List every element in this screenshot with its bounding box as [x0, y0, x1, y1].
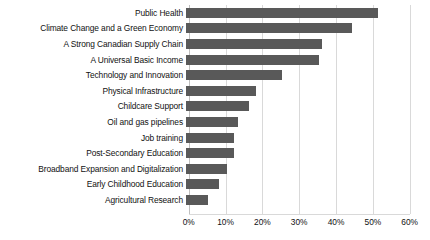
bar-row: Technology and Innovation: [0, 67, 430, 83]
x-tick-label: 40%: [328, 217, 345, 227]
x-tick-label: 10%: [217, 217, 234, 227]
bar-track: [186, 161, 430, 177]
x-tick-label: 60%: [401, 217, 418, 227]
bar[interactable]: [186, 101, 249, 111]
category-label: Early Childhood Education: [0, 179, 186, 189]
bar-row: Public Health: [0, 5, 430, 21]
bar-row: Childcare Support: [0, 99, 430, 115]
category-label: Oil and gas pipelines: [0, 117, 186, 127]
category-label: Climate Change and a Green Economy: [0, 23, 186, 33]
bar-track: [186, 83, 430, 99]
x-tick-label: 20%: [254, 217, 271, 227]
category-label: A Strong Canadian Supply Chain: [0, 39, 186, 49]
bar-row: A Strong Canadian Supply Chain: [0, 36, 430, 52]
bar[interactable]: [186, 195, 208, 205]
category-label: Physical Infrastructure: [0, 86, 186, 96]
category-label: A Universal Basic Income: [0, 55, 186, 65]
bar-row: Early Childhood Education: [0, 177, 430, 193]
bar-track: [186, 177, 430, 193]
category-label: Childcare Support: [0, 101, 186, 111]
bar[interactable]: [186, 86, 256, 96]
bar[interactable]: [186, 39, 322, 49]
chart-plot-area: Public HealthClimate Change and a Green …: [0, 0, 430, 240]
bar-rows: Public HealthClimate Change and a Green …: [0, 5, 430, 208]
bar[interactable]: [186, 8, 378, 18]
bar-row: Oil and gas pipelines: [0, 114, 430, 130]
bar-track: [186, 192, 430, 208]
bar-row: A Universal Basic Income: [0, 52, 430, 68]
bar[interactable]: [186, 133, 234, 143]
bar-row: Climate Change and a Green Economy: [0, 21, 430, 37]
bar-track: [186, 114, 430, 130]
bar-track: [186, 67, 430, 83]
x-tick-label: 0%: [183, 217, 195, 227]
bar-track: [186, 52, 430, 68]
bar-track: [186, 21, 430, 37]
category-label: Post-Secondary Education: [0, 148, 186, 158]
bar-row: Physical Infrastructure: [0, 83, 430, 99]
bar-row: Job training: [0, 130, 430, 146]
x-tick-label: 30%: [291, 217, 308, 227]
bar-track: [186, 99, 430, 115]
bar[interactable]: [186, 117, 238, 127]
bar-row: Agricultural Research: [0, 192, 430, 208]
bar-track: [186, 130, 430, 146]
category-label: Broadband Expansion and Digitalization: [0, 164, 186, 174]
bar-row: Post-Secondary Education: [0, 145, 430, 161]
category-label: Agricultural Research: [0, 195, 186, 205]
x-axis-tick-labels: 0%10%20%30%40%50%60%: [0, 217, 430, 231]
bar-track: [186, 145, 430, 161]
bar-track: [186, 5, 430, 21]
category-label: Technology and Innovation: [0, 70, 186, 80]
bar[interactable]: [186, 55, 319, 65]
x-tick-label: 50%: [364, 217, 381, 227]
bar[interactable]: [186, 23, 352, 33]
bar[interactable]: [186, 164, 227, 174]
bar-row: Broadband Expansion and Digitalization: [0, 161, 430, 177]
bar[interactable]: [186, 148, 234, 158]
x-axis-line: [189, 214, 410, 215]
category-label: Public Health: [0, 8, 186, 18]
bar[interactable]: [186, 70, 282, 80]
bar-chart: Public HealthClimate Change and a Green …: [0, 0, 430, 240]
bar-track: [186, 36, 430, 52]
bar[interactable]: [186, 179, 219, 189]
category-label: Job training: [0, 133, 186, 143]
